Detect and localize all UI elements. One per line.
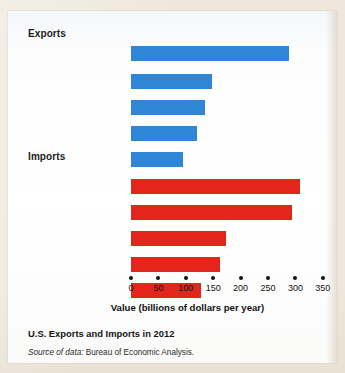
- x-tick-label: 250: [253, 283, 283, 293]
- scanned-page: Exports Imports Business, professional, …: [0, 0, 345, 373]
- bar-chart: Exports Imports Business, professional, …: [8, 11, 337, 363]
- bar-imports-computers: [131, 257, 220, 272]
- x-tick-dot: [211, 276, 215, 280]
- x-tick-label: 50: [143, 283, 173, 293]
- bar-exports-chemicals: [131, 152, 183, 167]
- x-tick-label: 200: [226, 283, 256, 293]
- bar-imports-crude-oil: [131, 179, 300, 194]
- x-tick-label: 0: [116, 283, 146, 293]
- bar-imports-travel-and-transportation: [131, 231, 226, 246]
- source-text: Bureau of Economic Analysis.: [86, 348, 194, 357]
- bar-imports-automobiles-and-parts: [131, 205, 292, 220]
- figure-caption: U.S. Exports and Imports in 2012: [28, 328, 174, 339]
- x-tick-dot: [184, 276, 188, 280]
- bar-exports-food-feeds-drinks: [131, 126, 197, 141]
- exports-group-heading: Exports: [28, 28, 66, 39]
- x-tick-dot: [321, 276, 325, 280]
- x-tick-dot: [156, 276, 160, 280]
- figure-panel: Exports Imports Business, professional, …: [8, 11, 337, 363]
- bar-exports-automobiles: [131, 100, 205, 115]
- x-axis-title: Value (billions of dollars per year): [8, 302, 337, 313]
- bar-exports-aircraft-and-parts: [131, 74, 212, 89]
- x-tick-dot: [129, 276, 133, 280]
- x-tick-dot: [293, 276, 297, 280]
- source-lead: Source of data:: [28, 348, 84, 357]
- bar-exports-business-services: [131, 46, 289, 61]
- x-tick-dot: [239, 276, 243, 280]
- imports-group-heading: Imports: [28, 151, 65, 162]
- x-tick-label: 350: [308, 283, 338, 293]
- x-tick-dot: [266, 276, 270, 280]
- x-tick-label: 100: [171, 283, 201, 293]
- x-tick-label: 150: [198, 283, 228, 293]
- figure-source: Source of data: Bureau of Economic Analy…: [28, 348, 194, 357]
- x-tick-label: 300: [280, 283, 310, 293]
